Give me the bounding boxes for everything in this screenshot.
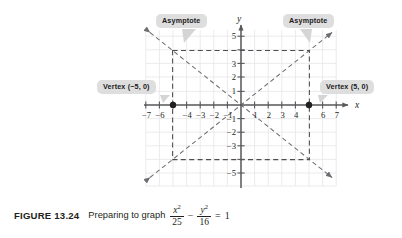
y-tick-label: −1: [227, 114, 236, 124]
x-tick-label: −3: [196, 110, 205, 120]
fraction-x-squared-over-25: x2 25: [170, 204, 184, 228]
vertex-point-right: [306, 102, 312, 108]
callout-asymptote-right: Asymptote: [283, 14, 334, 28]
x-axis-label: x: [354, 100, 360, 110]
leader-vertex-left: [160, 95, 170, 103]
x-tick-label: 7: [335, 110, 340, 120]
coordinate-plane: −7 −6 −4 −3 −2 −1 1 2 3 4 6 7 5 3 2 1 −1…: [0, 0, 402, 200]
callout-vertex-right: Vertex (5, 0): [320, 80, 374, 94]
y-tick-label: 3: [232, 59, 236, 69]
callout-label: Vertex (5, 0): [326, 82, 368, 91]
x-tick-label: 6: [321, 110, 326, 120]
figure-container: −7 −6 −4 −3 −2 −1 1 2 3 4 6 7 5 3 2 1 −1…: [0, 0, 402, 238]
fraction-y-squared-over-16: y2 16: [197, 204, 211, 228]
equals-sign: =: [214, 210, 222, 221]
x-tick-label: −7: [142, 110, 152, 120]
figure-number: FIGURE 13.24: [14, 210, 79, 221]
x-tick-label: −6: [155, 110, 165, 120]
caption-text: Preparing to graph: [88, 210, 165, 220]
y-tick-label: −5: [227, 168, 236, 178]
denominator: 25: [170, 217, 184, 228]
figure-caption: FIGURE 13.24 Preparing to graph x2 25 − …: [14, 203, 394, 227]
numerator: y2: [199, 204, 210, 217]
callout-label: Vertex (−5, 0): [103, 82, 150, 91]
x-tick-label: 4: [294, 110, 299, 120]
x-tick-label: 3: [280, 110, 284, 120]
x-tick-label: −2: [210, 110, 219, 120]
equation-right-side: 1: [225, 210, 230, 221]
y-tick-label: 2: [232, 72, 236, 82]
callout-label: Asymptote: [162, 16, 201, 25]
graph-svg: −7 −6 −4 −3 −2 −1 1 2 3 4 6 7 5 3 2 1 −1…: [0, 0, 402, 200]
denominator: 16: [197, 217, 211, 228]
equation: x2 25 − y2 16 = 1: [170, 203, 229, 227]
y-tick-label: −2: [227, 127, 236, 137]
x-tick-label: 1: [253, 110, 257, 120]
minus-operator: −: [187, 210, 195, 221]
callout-vertex-left: Vertex (−5, 0): [97, 80, 156, 94]
x-tick-label: 2: [267, 110, 271, 120]
numerator: x2: [171, 204, 182, 217]
callout-label: Asymptote: [289, 16, 328, 25]
x-tick-label: −4: [183, 110, 193, 120]
y-axis-label: y: [236, 14, 242, 24]
y-tick-label: −3: [227, 141, 236, 151]
vertex-point-left: [170, 102, 176, 108]
y-tick-label: 5: [232, 31, 236, 41]
y-tick-label: 1: [232, 86, 236, 96]
callout-asymptote-left: Asymptote: [156, 14, 207, 28]
